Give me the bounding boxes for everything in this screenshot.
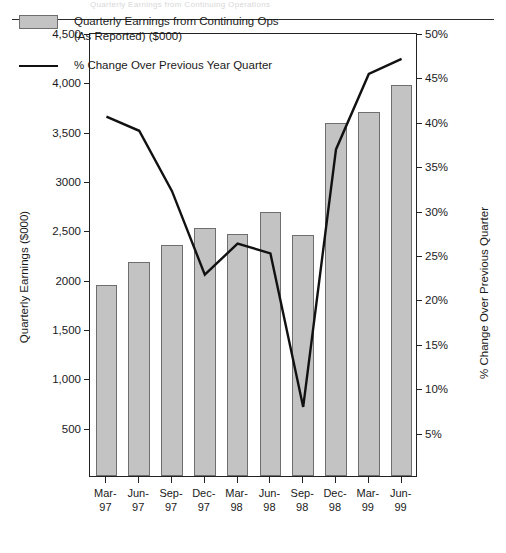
x-label-year: 98 (291, 501, 314, 515)
y2-tick-label: 45% (425, 72, 448, 84)
x-tick-label: Jun-99 (390, 487, 411, 514)
x-tick-label: Dec-98 (323, 487, 346, 514)
x-tick-label: Mar-98 (225, 487, 248, 514)
x-label-month: Jun- (390, 487, 411, 501)
y-tick-label: 500 (62, 423, 81, 435)
y-tick-label: 1,500 (52, 324, 81, 336)
y2-tick-label: 50% (425, 28, 448, 40)
x-tick-label: Sep-98 (291, 487, 314, 514)
x-label-year: 97 (127, 501, 148, 515)
y-tick-label: 2000 (55, 275, 81, 287)
y2-tick-label: 30% (425, 206, 448, 218)
x-label-year: 97 (94, 501, 117, 515)
x-tick-label: Jun-98 (259, 487, 280, 514)
cropped-header-text: Quarterly Earnings from Continuing Opera… (90, 0, 420, 12)
legend-bar-swatch-icon (19, 15, 58, 29)
legend-item-percent-change-label: % Change Over Previous Year Quarter (74, 58, 272, 73)
y2-tick-label: 40% (425, 117, 448, 129)
legend-item-earnings-label: Quarterly Earnings from Continuing Ops (… (74, 14, 279, 43)
x-label-year: 98 (259, 501, 280, 515)
y2-axis-title: % Change Over Previous Quarter (478, 207, 490, 379)
x-tick-label: Jun-97 (127, 487, 148, 514)
x-label-year: 99 (356, 501, 379, 515)
chart-page: Quarterly Earnings from Continuing Opera… (0, 0, 506, 553)
x-label-month: Jun- (259, 487, 280, 501)
x-tick-label: Dec-97 (192, 487, 215, 514)
legend-item-earnings: Quarterly Earnings from Continuing Ops (… (19, 14, 284, 43)
x-label-month: Mar- (356, 487, 379, 501)
x-label-month: Dec- (192, 487, 215, 501)
x-tick-label: Sep-97 (159, 487, 182, 514)
legend-item-percent-change: % Change Over Previous Year Quarter (19, 58, 284, 73)
x-label-month: Sep- (159, 487, 182, 501)
line-series (90, 34, 418, 478)
y-axis-title: Quarterly Earnings ($000) (18, 210, 30, 342)
x-axis-labels: Mar-97Jun-97Sep-97Dec-97Mar-98Jun-98Sep-… (89, 481, 417, 527)
y2-tick-label: 15% (425, 339, 448, 351)
y2-tick-label: 20% (425, 294, 448, 306)
y2-tick-label: 5% (425, 428, 442, 440)
x-label-month: Mar- (94, 487, 117, 501)
legend-line-swatch-icon (19, 65, 58, 67)
y-tick-label: 3,500 (52, 127, 81, 139)
x-label-year: 97 (159, 501, 182, 515)
x-label-year: 98 (225, 501, 248, 515)
percent-change-line-icon (90, 34, 418, 478)
chart-legend: Quarterly Earnings from Continuing Ops (… (19, 14, 284, 73)
x-tick-label: Mar-99 (356, 487, 379, 514)
y2-tick-label: 25% (425, 250, 448, 262)
x-label-month: Mar- (225, 487, 248, 501)
x-tick-label: Mar-97 (94, 487, 117, 514)
x-label-year: 97 (192, 501, 215, 515)
x-label-month: Jun- (127, 487, 148, 501)
x-label-month: Sep- (291, 487, 314, 501)
legend-earnings-line1: Quarterly Earnings from Continuing Ops (74, 14, 279, 29)
y-tick-label: 1,000 (52, 373, 81, 385)
x-label-month: Dec- (323, 487, 346, 501)
y2-tick-label: 10% (425, 383, 448, 395)
x-label-year: 99 (390, 501, 411, 515)
y-tick-label: 2,500 (52, 225, 81, 237)
y-tick-label: 4,000 (52, 77, 81, 89)
plot-area: 5001,0001,50020002,50030003,5004,0004,50… (89, 33, 417, 477)
legend-earnings-line2: (As Reported) ($000) (74, 29, 279, 44)
y-tick-label: 3000 (55, 176, 81, 188)
x-label-year: 98 (323, 501, 346, 515)
y2-tick-label: 35% (425, 161, 448, 173)
